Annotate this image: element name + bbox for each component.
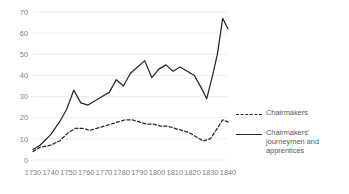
svg-text:50: 50 <box>20 50 28 59</box>
svg-text:60: 60 <box>20 29 28 38</box>
legend-swatch-solid-icon <box>236 130 262 139</box>
svg-text:30: 30 <box>20 92 28 101</box>
svg-text:1750: 1750 <box>60 168 76 177</box>
legend-label-journeymen: Chairmakers' journeymen and apprentices <box>266 128 349 156</box>
svg-text:10: 10 <box>20 135 28 144</box>
svg-text:1780: 1780 <box>113 168 129 177</box>
y-axis-tick-labels: 010203040506070 <box>20 8 28 165</box>
svg-text:1760: 1760 <box>78 168 94 177</box>
series-journeymen <box>33 18 228 149</box>
series-layer <box>33 18 228 151</box>
svg-text:20: 20 <box>20 113 28 122</box>
svg-text:1770: 1770 <box>96 168 112 177</box>
svg-text:1730: 1730 <box>25 168 41 177</box>
svg-text:1740: 1740 <box>43 168 59 177</box>
legend-item-chairmakers: Chairmakers <box>236 108 349 119</box>
line-chart: 010203040506070 173017401750176017701780… <box>0 0 349 194</box>
series-chairmakers <box>33 120 228 152</box>
svg-text:1800: 1800 <box>149 168 165 177</box>
svg-text:1810: 1810 <box>167 168 183 177</box>
svg-text:1820: 1820 <box>184 168 200 177</box>
legend-swatch-dashed-icon <box>236 110 262 119</box>
svg-text:1840: 1840 <box>220 168 236 177</box>
svg-text:40: 40 <box>20 71 28 80</box>
legend-label-chairmakers: Chairmakers <box>266 108 308 117</box>
chart-legend: Chairmakers Chairmakers' journeymen and … <box>236 108 349 165</box>
svg-text:1790: 1790 <box>131 168 147 177</box>
svg-text:1830: 1830 <box>202 168 218 177</box>
svg-text:70: 70 <box>20 8 28 17</box>
chart-container: 010203040506070 173017401750176017701780… <box>0 0 349 194</box>
legend-item-journeymen: Chairmakers' journeymen and apprentices <box>236 128 349 156</box>
x-axis-tick-labels: 1730174017501760177017801790180018101820… <box>25 168 236 177</box>
svg-text:0: 0 <box>24 156 28 165</box>
